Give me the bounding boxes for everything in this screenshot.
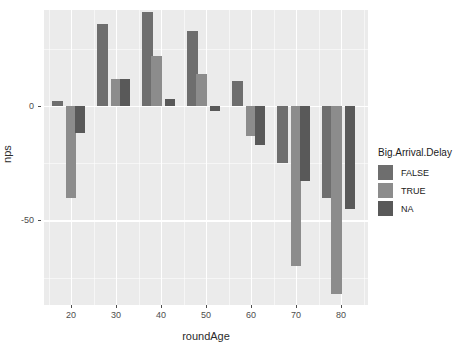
gridline-vertical xyxy=(94,10,95,305)
legend-item-true: TRUE xyxy=(378,183,472,198)
bar xyxy=(210,106,220,111)
x-tick-mark xyxy=(161,305,162,308)
gridline-vertical xyxy=(206,10,207,305)
gridline-horizontal xyxy=(44,220,368,221)
legend-item-na: NA xyxy=(378,201,472,216)
legend-label: NA xyxy=(401,204,414,214)
x-tick-label: 30 xyxy=(103,311,129,320)
gridline-vertical xyxy=(161,10,162,305)
bar xyxy=(75,106,85,133)
bar xyxy=(300,106,310,181)
gridline-vertical xyxy=(139,10,140,305)
legend-key xyxy=(378,183,393,198)
x-tick-label: 80 xyxy=(328,311,354,320)
bar xyxy=(232,81,242,106)
legend-entries: FALSETRUENA xyxy=(378,165,472,216)
gridline-horizontal xyxy=(44,278,368,279)
y-tick-mark xyxy=(38,106,41,107)
legend-swatch-icon xyxy=(378,201,393,216)
x-tick-mark xyxy=(206,305,207,308)
bar xyxy=(120,79,130,106)
legend: Big.Arrival.Delay FALSETRUENA xyxy=(378,147,472,219)
gridline-horizontal xyxy=(44,106,368,107)
bar xyxy=(345,106,355,209)
chart-container: 0-50 20304050607080 roundAge nps Big.Arr… xyxy=(0,0,472,353)
x-tick-mark xyxy=(296,305,297,308)
x-tick-mark xyxy=(341,305,342,308)
gridline-vertical xyxy=(49,10,50,305)
bar xyxy=(165,99,175,106)
legend-title: Big.Arrival.Delay xyxy=(378,147,472,158)
gridline-vertical xyxy=(229,10,230,305)
x-tick-mark xyxy=(116,305,117,308)
gridline-horizontal xyxy=(44,163,368,164)
gridline-horizontal xyxy=(44,49,368,50)
bar xyxy=(196,74,206,106)
legend-item-false: FALSE xyxy=(378,165,472,180)
x-tick-label: 70 xyxy=(283,311,309,320)
x-tick-label: 50 xyxy=(193,311,219,320)
bar xyxy=(97,24,107,106)
legend-key xyxy=(378,201,393,216)
x-tick-label: 20 xyxy=(58,311,84,320)
x-tick-mark xyxy=(71,305,72,308)
plot-panel xyxy=(44,10,368,305)
bar xyxy=(255,106,265,145)
y-tick-label: -50 xyxy=(8,216,34,225)
gridline-vertical xyxy=(251,10,252,305)
legend-key xyxy=(378,165,393,180)
x-tick-label: 40 xyxy=(148,311,174,320)
bar xyxy=(151,56,161,106)
gridline-vertical xyxy=(184,10,185,305)
gridline-vertical xyxy=(319,10,320,305)
gridline-vertical xyxy=(274,10,275,305)
bar xyxy=(331,106,341,294)
y-tick-mark xyxy=(38,220,41,221)
gridline-vertical xyxy=(364,10,365,305)
x-tick-mark xyxy=(251,305,252,308)
y-axis-title: nps xyxy=(1,124,13,184)
bar xyxy=(52,101,62,106)
bar xyxy=(277,106,287,163)
legend-label: TRUE xyxy=(401,186,426,196)
legend-swatch-icon xyxy=(378,165,393,180)
x-tick-label: 60 xyxy=(238,311,264,320)
x-axis-title: roundAge xyxy=(44,330,368,342)
legend-swatch-icon xyxy=(378,183,393,198)
gridline-vertical xyxy=(116,10,117,305)
y-tick-label: 0 xyxy=(8,102,34,111)
legend-label: FALSE xyxy=(401,168,429,178)
